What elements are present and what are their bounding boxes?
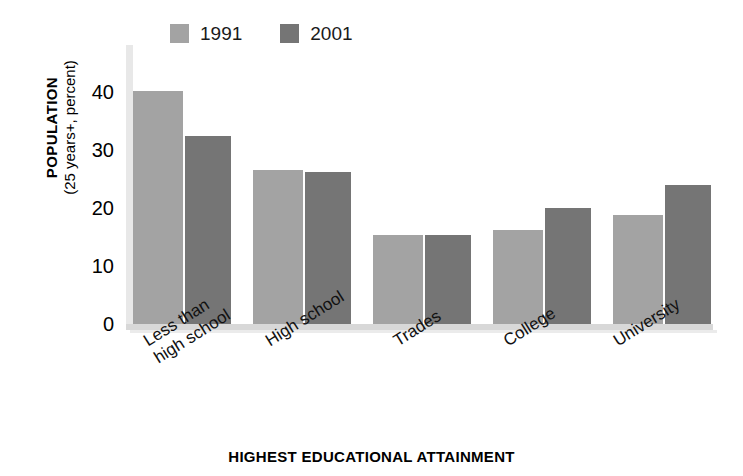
plot-area [133,45,713,324]
chart-legend: 1991 2001 [170,20,353,46]
y-axis-line [126,45,133,325]
legend-label-2001: 2001 [310,24,352,43]
bar-1991-less-than-high-school [133,91,183,324]
y-axis-title-sub: (25 years+, percent) [61,8,78,248]
legend-label-1991: 1991 [200,24,242,43]
y-axis-title-main: POPULATION [43,8,60,248]
legend-swatch-2001 [280,24,299,43]
x-axis-title: HIGHEST EDUCATIONAL ATTAINMENT [0,448,743,465]
bar-1991-high-school [253,170,303,324]
y-axis-title: POPULATION (25 years+, percent) [43,8,78,248]
legend-entry-1991: 1991 [170,24,242,43]
bar-2001-college [545,208,591,324]
legend-swatch-1991 [170,24,189,43]
y-tick-0: 0 [68,314,114,334]
bar-chart-figure: 1991 2001 40 30 20 10 0 POPULATION (25 y… [0,0,743,476]
bar-1991-college [493,230,543,324]
bar-1991-trades [373,235,423,324]
legend-entry-2001: 2001 [280,24,352,43]
y-tick-10: 10 [68,256,114,276]
